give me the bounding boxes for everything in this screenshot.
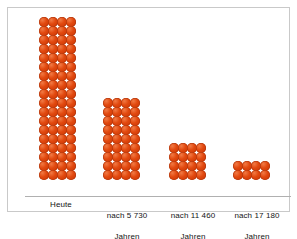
x-tick-label-17180-line1: nach 17 180 [234,211,279,220]
pictogram-chart-figure: Heute nach 5 730 Jahren nach 11 460 Jahr… [0,0,297,219]
atom-dot [66,170,76,180]
plot-area: Heute nach 5 730 Jahren nach 11 460 Jahr… [16,16,297,219]
x-tick-label-5730: nach 5 730 Jahren [92,200,162,219]
atom-dot [130,170,140,180]
x-tick-label-17180: nach 17 180 Jahren [222,200,292,219]
bar-nach-5730-jahren [103,99,140,180]
atom-dot [196,170,206,180]
x-tick-label-11460-line1: nach 11 460 [171,211,216,220]
dot-row [233,170,270,180]
x-tick-label-heute: Heute [28,200,94,211]
dot-row [169,170,206,180]
bar-heute [39,18,76,180]
bar-nach-17180-jahren [233,162,270,180]
dot-row [103,170,140,180]
x-tick-label-11460: nach 11 460 Jahren [158,200,228,219]
chart-frame: Heute nach 5 730 Jahren nach 11 460 Jahr… [7,7,290,212]
x-axis-line [25,196,291,197]
x-tick-label-5730-line1: nach 5 730 [107,211,148,220]
bar-nach-11460-jahren [169,144,206,180]
atom-dot [260,170,270,180]
dot-row [39,170,76,180]
